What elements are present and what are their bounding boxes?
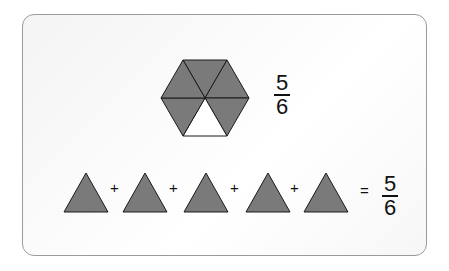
triangle-3	[184, 173, 228, 212]
triangle-2	[123, 173, 167, 212]
plus-sign-1: +	[110, 179, 119, 196]
diagram-shapes	[0, 0, 449, 271]
result-fraction-numerator: 5	[384, 171, 396, 196]
plus-sign-2: +	[169, 179, 178, 196]
result-fraction: 5 6	[382, 174, 398, 218]
triangle-4	[246, 173, 290, 212]
triangle-1	[64, 173, 108, 212]
equals-sign: =	[360, 182, 369, 199]
plus-sign-4: +	[290, 179, 299, 196]
top-fraction-denominator: 6	[276, 94, 288, 119]
plus-sign-3: +	[230, 179, 239, 196]
top-fraction-numerator: 5	[276, 70, 288, 95]
triangle-5	[304, 173, 348, 212]
top-fraction: 5 6	[274, 73, 290, 117]
triangle-row	[64, 173, 348, 212]
hexagon-fraction	[161, 60, 249, 136]
result-fraction-denominator: 6	[384, 195, 396, 220]
